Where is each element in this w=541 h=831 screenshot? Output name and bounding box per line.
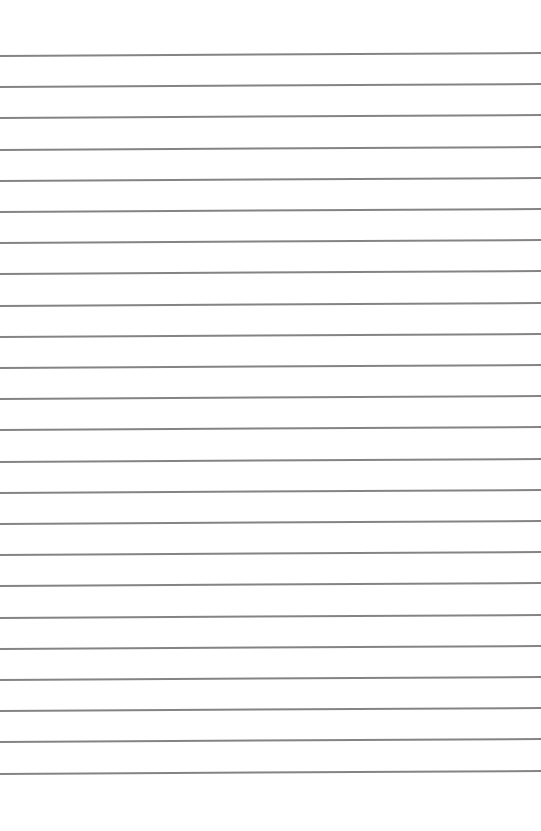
ruled-line — [0, 395, 541, 400]
ruled-line — [0, 426, 541, 431]
ruled-line — [0, 707, 541, 712]
ruled-line — [0, 177, 541, 182]
ruled-line — [0, 114, 541, 119]
ruled-line — [0, 239, 541, 244]
ruled-line — [0, 458, 541, 463]
ruled-line — [0, 364, 541, 369]
ruled-line — [0, 582, 541, 587]
ruled-line — [0, 676, 541, 681]
ruled-line — [0, 645, 541, 650]
ruled-line — [0, 333, 541, 338]
ruled-line — [0, 208, 541, 213]
ruled-line — [0, 52, 541, 57]
ruled-line — [0, 83, 541, 88]
ruled-line — [0, 520, 541, 525]
ruled-line — [0, 270, 541, 275]
ruled-line — [0, 489, 541, 494]
ruled-line — [0, 302, 541, 307]
ruled-line — [0, 146, 541, 151]
ruled-sheet — [0, 0, 541, 831]
ruled-line — [0, 551, 541, 556]
ruled-line — [0, 614, 541, 619]
ruled-line — [0, 770, 541, 775]
ruled-line — [0, 738, 541, 743]
